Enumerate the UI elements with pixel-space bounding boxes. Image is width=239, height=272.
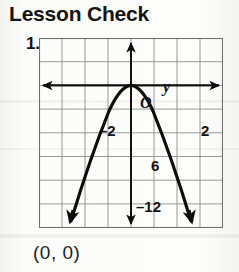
answer-text: (0, 0) [33,242,80,264]
scan-artifact-band [0,234,239,238]
graph-svg [39,38,223,228]
x-tick-label-2: 2 [201,122,209,139]
page-title: Lesson Check [9,2,149,26]
origin-label: O [140,94,152,112]
y-tick-label-6: 6 [151,157,159,174]
y-tick-label-negative-12: –12 [136,198,161,215]
coordinate-graph: y x O –2 2 6 –12 [39,38,223,228]
problem-number: 1. [26,34,40,54]
y-axis-label: y [163,78,170,96]
x-tick-label-negative-2: –2 [99,122,116,139]
